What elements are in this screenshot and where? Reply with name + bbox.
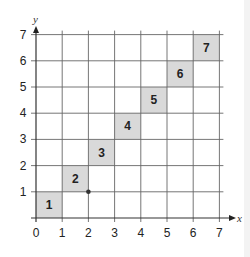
square-number-label: 6 (177, 67, 184, 81)
x-tick-label: 5 (164, 226, 171, 240)
x-axis-label: x (236, 212, 242, 224)
y-tick-label: 2 (20, 159, 27, 173)
y-tick-label: 4 (20, 106, 27, 120)
x-tick-label: 7 (216, 226, 223, 240)
y-axis-arrow-icon (33, 26, 39, 33)
grid-diagram: yx0123456712345671234567 (0, 0, 250, 257)
square-number-label: 1 (46, 198, 53, 212)
data-point (86, 190, 91, 195)
x-axis-arrow-icon (229, 215, 236, 221)
y-tick-label: 5 (20, 80, 27, 94)
square-number-label: 5 (151, 93, 158, 107)
square-number-label: 4 (124, 119, 131, 133)
square-number-label: 3 (98, 146, 105, 160)
x-tick-label: 3 (111, 226, 118, 240)
page-edge (244, 0, 250, 257)
x-tick-label: 6 (190, 226, 197, 240)
y-tick-label: 7 (20, 28, 27, 42)
x-tick-label: 4 (137, 226, 144, 240)
square-number-label: 7 (203, 41, 210, 55)
square-number-label: 2 (72, 172, 79, 186)
x-tick-label: 1 (59, 226, 66, 240)
x-tick-label: 0 (33, 226, 40, 240)
y-tick-label: 3 (20, 132, 27, 146)
x-tick-label: 2 (85, 226, 92, 240)
y-tick-label: 6 (20, 54, 27, 68)
y-tick-label: 1 (20, 185, 27, 199)
y-axis-label: y (32, 13, 38, 25)
